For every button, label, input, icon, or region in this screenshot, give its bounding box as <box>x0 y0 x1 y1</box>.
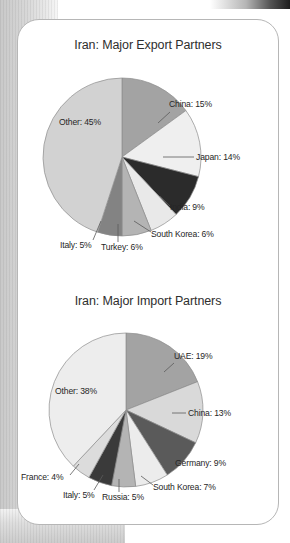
import-label-russia: Russia: 5% <box>102 493 144 502</box>
import-label-italy: Italy: 5% <box>63 491 95 500</box>
import-chart-title: Iran: Major Import Partners <box>18 294 278 308</box>
page-edge-shadow-top <box>210 0 290 9</box>
export-label-china: China: 15% <box>169 100 212 109</box>
export-label-south-korea: South Korea: 6% <box>151 230 214 239</box>
import-label-germany: Germany: 9% <box>175 459 226 468</box>
import-label-china: China: 13% <box>188 409 231 418</box>
export-chart-title: Iran: Major Export Partners <box>18 38 278 52</box>
export-label-india: India: 9% <box>170 203 204 212</box>
import-label-uae: UAE: 19% <box>174 352 212 361</box>
import-label-south-korea: South Korea: 7% <box>153 483 216 492</box>
import-label-france: France: 4% <box>21 473 63 482</box>
export-label-japan: Japan: 14% <box>196 153 240 162</box>
import-label-other: Other: 38% <box>55 387 97 396</box>
export-label-italy: Italy: 5% <box>60 241 92 250</box>
export-label-other: Other: 45% <box>59 118 101 127</box>
charts-card: Iran: Major Export Partners China: 15% J… <box>17 19 279 525</box>
page-background: Iran: Major Export Partners China: 15% J… <box>0 0 290 543</box>
export-label-turkey: Turkey: 6% <box>101 243 143 252</box>
